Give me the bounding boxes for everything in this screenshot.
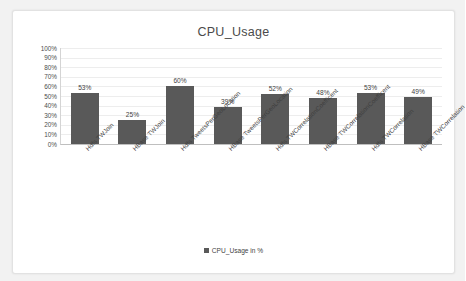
bar-data-label: 25% bbox=[112, 111, 152, 118]
x-axis-label-slot: HBase TWJoin bbox=[111, 145, 151, 225]
y-axis: 100%90%80%70%60%50%40%30%20%10%0% bbox=[31, 48, 57, 144]
x-axis-label-slot: HBase TweetsPerGeoLocation bbox=[207, 145, 247, 225]
chart-title: CPU_Usage bbox=[13, 25, 454, 39]
bar-data-label: 49% bbox=[398, 88, 438, 95]
x-axis-label-slot: Hdfs TWJoin bbox=[64, 145, 104, 225]
bar-slot: 48% bbox=[303, 48, 343, 144]
y-axis-tick-label: 30% bbox=[44, 111, 57, 120]
y-axis-tick-label: 100% bbox=[41, 44, 57, 53]
chart-card: CPU_Usage 100%90%80%70%60%50%40%30%20%10… bbox=[12, 10, 455, 274]
x-axis-label-slot: HBase TWCorrelationCoefficent bbox=[302, 145, 342, 225]
y-axis-tick-label: 50% bbox=[44, 92, 57, 101]
legend-label: CPU_Usage in % bbox=[212, 247, 263, 254]
y-axis-tick-label: 70% bbox=[44, 72, 57, 81]
x-axis-label-slot: Hdfs TweetsPerGeoLocation bbox=[159, 145, 199, 225]
chart-legend: CPU_Usage in % bbox=[13, 247, 454, 254]
y-axis-tick-label: 10% bbox=[44, 130, 57, 139]
legend-swatch-icon bbox=[204, 248, 209, 253]
bar-slot: 53% bbox=[351, 48, 391, 144]
bar-data-label: 53% bbox=[65, 84, 105, 91]
x-axis-label-slot: HBase TWCorrelation bbox=[397, 145, 437, 225]
y-axis-tick-label: 60% bbox=[44, 82, 57, 91]
x-axis-category-labels: Hdfs TWJoinHBase TWJoinHdfs TweetsPerGeo… bbox=[60, 145, 441, 225]
y-axis-tick-label: 80% bbox=[44, 63, 57, 72]
bar-slot: 60% bbox=[160, 48, 200, 144]
bar-slot: 49% bbox=[398, 48, 438, 144]
bar-data-label: 60% bbox=[160, 77, 200, 84]
x-axis-label-slot: Hdfs TWCorrelationCoefficent bbox=[254, 145, 294, 225]
bar-slot: 39% bbox=[208, 48, 248, 144]
y-axis-tick-label: 0% bbox=[48, 140, 57, 149]
y-axis-tick-label: 90% bbox=[44, 53, 57, 62]
y-axis-tick-label: 20% bbox=[44, 120, 57, 129]
y-axis-tick-label: 40% bbox=[44, 101, 57, 110]
bar-slot: 52% bbox=[255, 48, 295, 144]
x-axis-label-slot: Hdfs TWCorrelation bbox=[350, 145, 390, 225]
bar-slot: 53% bbox=[65, 48, 105, 144]
